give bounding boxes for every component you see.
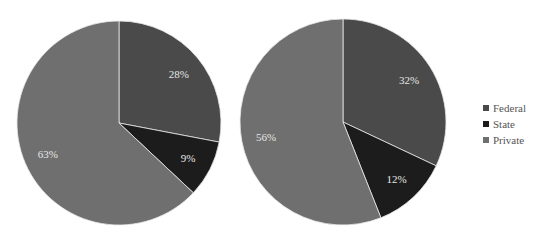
data-label: 56% xyxy=(256,131,276,143)
legend-label: Federal xyxy=(493,100,526,116)
legend-swatch-state xyxy=(483,121,489,127)
legend-label: Private xyxy=(493,132,524,148)
legend: Federal State Private xyxy=(483,100,526,148)
legend-label: State xyxy=(493,116,515,132)
data-label: 28% xyxy=(169,68,189,80)
data-label: 12% xyxy=(387,173,407,185)
legend-swatch-private xyxy=(483,137,489,143)
legend-item-federal: Federal xyxy=(483,100,526,116)
data-label: 9% xyxy=(181,152,196,164)
pie-slice-federal xyxy=(119,21,221,142)
data-label: 63% xyxy=(38,148,58,160)
legend-swatch-federal xyxy=(483,105,489,111)
data-label: 32% xyxy=(399,74,419,86)
legend-item-private: Private xyxy=(483,132,526,148)
pie-charts: 28%9%63%32%12%56% xyxy=(0,0,545,234)
legend-item-state: State xyxy=(483,116,526,132)
